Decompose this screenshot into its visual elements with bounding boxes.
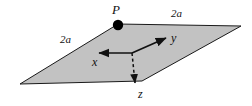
x-axis-label: x (92, 56, 97, 68)
edge-label-2a-right: 2a (171, 8, 182, 19)
z-axis-label: z (138, 88, 143, 100)
edge-label-2a-left: 2a (60, 34, 71, 45)
y-axis-label: y (171, 32, 176, 44)
figure-canvas (0, 0, 252, 106)
point-p-label: P (112, 3, 120, 16)
figure-container: P 2a 2a y x z (0, 0, 252, 106)
point-p-marker (113, 20, 123, 30)
square-plate (20, 24, 241, 84)
